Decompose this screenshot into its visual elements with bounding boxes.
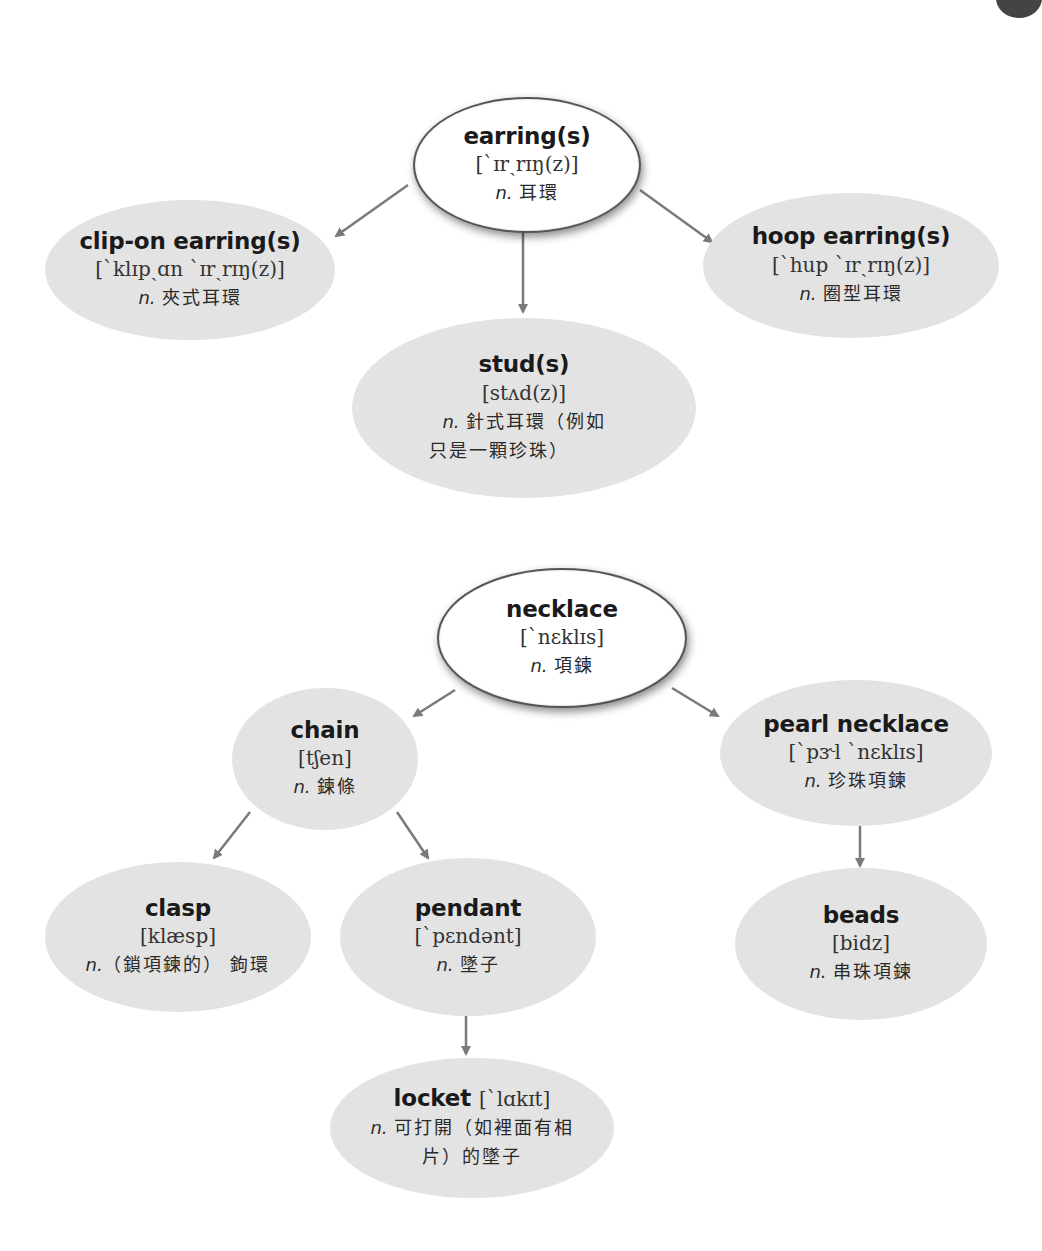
phonetic-clasp: [klæsp] (140, 922, 216, 951)
term-necklace: necklace (506, 595, 618, 624)
node-necklace: necklace [`nɛklɪs] n.項鍊 (437, 568, 687, 708)
term-locket: locket (394, 1085, 471, 1111)
phonetic-hoop-earrings: [`hup `ɪrˏrɪŋ(z)] (772, 251, 930, 280)
phonetic-pendant: [`pɛndənt] (414, 922, 521, 951)
locket-heading-row: locket[`lɑkɪt] (394, 1084, 551, 1114)
corner-decoration (996, 0, 1042, 18)
definition-clasp: n.（鎖項鍊的） 鉤環 (86, 951, 271, 980)
phonetic-studs: [stʌd(z)] (482, 379, 566, 408)
node-hoop-earrings: hoop earring(s) [`hup `ɪrˏrɪŋ(z)] n.圈型耳環 (703, 193, 999, 338)
term-beads: beads (823, 901, 900, 930)
arrow-earring-to-hoop (640, 190, 712, 242)
definition-beads: n.串珠項鍊 (809, 958, 912, 987)
definition-chain: n.鍊條 (293, 773, 356, 802)
definition-pendant: n.墜子 (436, 951, 499, 980)
phonetic-clip-on-earrings: [`klɪpˏɑn `ɪrˏrɪŋ(z)] (95, 255, 285, 284)
phonetic-earrings: [`ɪrˏrɪŋ(z)] (475, 150, 578, 179)
definition-hoop-earrings: n.圈型耳環 (799, 280, 902, 309)
node-pendant: pendant [`pɛndənt] n.墜子 (340, 858, 596, 1016)
arrow-necklace-to-chain (414, 690, 455, 716)
node-chain: chain [tʃen] n.鍊條 (232, 688, 418, 830)
node-studs: stud(s) [stʌd(z)] n.針式耳環（例如 只是一顆珍珠） (352, 318, 696, 498)
term-earrings: earring(s) (463, 122, 590, 151)
term-pearl-necklace: pearl necklace (763, 710, 949, 739)
phonetic-chain: [tʃen] (298, 744, 352, 773)
phonetic-pearl-necklace: [`pɝl `nɛklɪs] (788, 738, 923, 767)
arrow-chain-to-clasp (214, 812, 250, 858)
term-studs: stud(s) (479, 350, 570, 379)
node-earrings: earring(s) [`ɪrˏrɪŋ(z)] n.耳環 (413, 97, 641, 233)
node-locket: locket[`lɑkɪt] n.可打開（如裡面有相 片）的墜子 (330, 1058, 614, 1198)
definition-locket-line1: n.可打開（如裡面有相 (370, 1114, 573, 1143)
node-clasp: clasp [klæsp] n.（鎖項鍊的） 鉤環 (45, 862, 311, 1012)
definition-earrings: n.耳環 (495, 179, 558, 208)
arrow-chain-to-pendant (397, 812, 428, 858)
definition-pearl-necklace: n.珍珠項鍊 (804, 767, 907, 796)
arrow-earring-to-clipon (336, 185, 408, 236)
node-beads: beads [bidz] n.串珠項鍊 (735, 868, 987, 1020)
definition-studs-line2: 只是一顆珍珠） (429, 437, 569, 466)
definition-locket-line2: 片）的墜子 (422, 1143, 522, 1172)
term-clasp: clasp (145, 894, 211, 923)
definition-clip-on-earrings: n.夾式耳環 (138, 284, 241, 313)
term-clip-on-earrings: clip-on earring(s) (79, 227, 300, 256)
phonetic-locket: [`lɑkɪt] (479, 1087, 550, 1111)
term-pendant: pendant (415, 894, 521, 923)
term-hoop-earrings: hoop earring(s) (752, 222, 951, 251)
definition-studs-line1: n.針式耳環（例如 (442, 408, 605, 437)
arrow-necklace-to-pearl (672, 688, 718, 716)
node-clip-on-earrings: clip-on earring(s) [`klɪpˏɑn `ɪrˏrɪŋ(z)]… (45, 200, 335, 340)
node-pearl-necklace: pearl necklace [`pɝl `nɛklɪs] n.珍珠項鍊 (720, 680, 992, 826)
phonetic-necklace: [`nɛklɪs] (520, 623, 604, 652)
phonetic-beads: [bidz] (832, 929, 890, 958)
definition-necklace: n.項鍊 (530, 652, 593, 681)
term-chain: chain (291, 716, 360, 745)
